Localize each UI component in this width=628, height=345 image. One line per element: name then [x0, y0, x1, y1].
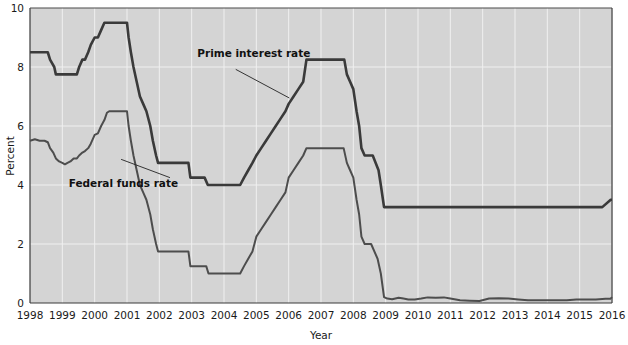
- y-tick-label: 6: [17, 120, 24, 132]
- y-tick-label: 8: [17, 61, 24, 73]
- x-tick-label: 2015: [566, 309, 593, 321]
- x-tick-label: 2016: [599, 309, 626, 321]
- x-axis-tick-labels: 1998199920002001200220032004200520062007…: [17, 309, 626, 321]
- x-tick-label: 2005: [243, 309, 270, 321]
- x-tick-label: 2012: [469, 309, 496, 321]
- x-tick-label: 2014: [534, 309, 561, 321]
- y-tick-label: 0: [17, 297, 24, 309]
- x-tick-label: 2011: [437, 309, 464, 321]
- x-tick-label: 2013: [502, 309, 529, 321]
- x-tick-label: 2006: [275, 309, 302, 321]
- y-tick-label: 10: [11, 2, 24, 14]
- x-tick-label: 2010: [405, 309, 432, 321]
- x-tick-label: 2001: [114, 309, 141, 321]
- x-tick-label: 2008: [340, 309, 367, 321]
- x-tick-label: 2004: [211, 309, 238, 321]
- x-tick-label: 1999: [49, 309, 76, 321]
- x-tick-label: 2000: [81, 309, 108, 321]
- annotation-label-federal-funds-rate: Federal funds rate: [69, 177, 178, 189]
- x-tick-label: 2003: [178, 309, 205, 321]
- y-tick-label: 4: [17, 179, 24, 191]
- x-tick-label: 2009: [372, 309, 399, 321]
- x-tick-label: 1998: [17, 309, 44, 321]
- x-tick-label: 2007: [308, 309, 335, 321]
- x-tick-label: 2002: [146, 309, 173, 321]
- y-tick-label: 2: [17, 238, 24, 250]
- annotation-label-prime-interest-rate: Prime interest rate: [197, 47, 310, 59]
- x-axis-title: Year: [309, 329, 333, 341]
- y-axis-title: Percent: [4, 136, 16, 176]
- chart-canvas: 0246810 19981999200020012002200320042005…: [0, 0, 628, 345]
- interest-rates-line-chart: 0246810 19981999200020012002200320042005…: [0, 0, 628, 345]
